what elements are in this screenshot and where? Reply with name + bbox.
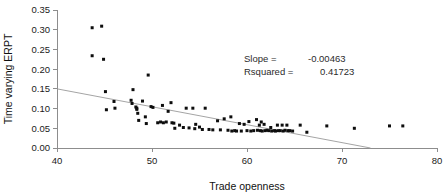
data-point bbox=[240, 130, 243, 133]
data-point bbox=[255, 118, 258, 121]
data-point bbox=[162, 121, 165, 124]
data-point bbox=[211, 128, 214, 131]
data-point bbox=[276, 124, 279, 127]
data-point bbox=[243, 123, 246, 126]
data-point bbox=[178, 124, 181, 127]
slope-label: Slope = bbox=[244, 53, 277, 64]
data-point bbox=[105, 108, 108, 111]
data-point bbox=[261, 130, 264, 133]
data-point bbox=[193, 127, 196, 130]
data-point bbox=[141, 100, 144, 103]
data-point-group bbox=[91, 25, 405, 134]
y-tick-label: 0.20 bbox=[32, 64, 51, 75]
x-axis-title: Trade openness bbox=[209, 180, 285, 192]
y-tick-label: 0.25 bbox=[32, 44, 51, 55]
data-point bbox=[194, 123, 197, 126]
data-point bbox=[274, 130, 277, 133]
data-point bbox=[173, 127, 176, 130]
y-tick-marks bbox=[53, 10, 57, 148]
data-point bbox=[185, 107, 188, 110]
data-point bbox=[191, 107, 194, 110]
data-point bbox=[299, 124, 302, 127]
data-point bbox=[223, 117, 226, 120]
y-tick-label: 0.35 bbox=[32, 4, 51, 15]
statistics-annotation: Slope = -0.00463 Rsquared = 0.41723 bbox=[244, 53, 354, 77]
data-point bbox=[167, 110, 170, 113]
data-point bbox=[270, 130, 273, 133]
data-point bbox=[131, 102, 134, 105]
data-point bbox=[135, 108, 138, 111]
rsquared-value: 0.41723 bbox=[320, 66, 354, 77]
data-point bbox=[267, 129, 270, 132]
y-tick-label: 0.05 bbox=[32, 123, 51, 134]
data-point bbox=[145, 122, 148, 125]
y-tick-labels: 0.000.050.100.150.200.250.300.35 bbox=[32, 4, 51, 153]
data-point bbox=[229, 115, 232, 118]
data-point bbox=[91, 54, 94, 57]
data-point bbox=[288, 129, 291, 132]
data-point bbox=[130, 99, 133, 102]
y-tick-label: 0.15 bbox=[32, 83, 51, 94]
data-point bbox=[151, 106, 154, 109]
data-point bbox=[198, 126, 201, 129]
data-point bbox=[201, 128, 204, 131]
data-point bbox=[156, 121, 159, 124]
data-point bbox=[182, 126, 185, 129]
x-tick-marks bbox=[57, 148, 437, 152]
data-point bbox=[258, 124, 261, 127]
rsquared-label: Rsquared = bbox=[244, 66, 294, 77]
data-point bbox=[269, 126, 272, 129]
data-point bbox=[325, 124, 328, 127]
data-point bbox=[227, 129, 230, 132]
y-tick-label: 0.10 bbox=[32, 103, 51, 114]
data-point bbox=[102, 58, 105, 61]
data-point bbox=[252, 129, 255, 132]
x-tick-labels: 4050607080 bbox=[52, 155, 443, 166]
data-point bbox=[204, 107, 207, 110]
data-point bbox=[247, 120, 250, 123]
chart-canvas: 0.000.050.100.150.200.250.300.35 4050607… bbox=[0, 0, 447, 195]
data-point bbox=[91, 26, 94, 29]
data-point bbox=[161, 104, 164, 107]
scatter-chart: 0.000.050.100.150.200.250.300.35 4050607… bbox=[0, 0, 447, 195]
data-point bbox=[284, 129, 287, 132]
data-point bbox=[219, 128, 222, 131]
data-point bbox=[291, 130, 294, 133]
data-point bbox=[165, 120, 168, 123]
plot-area: 0.000.050.100.150.200.250.300.35 4050607… bbox=[32, 4, 443, 166]
data-point bbox=[279, 129, 282, 132]
data-point bbox=[305, 131, 308, 134]
x-tick-label: 80 bbox=[432, 155, 443, 166]
data-point bbox=[401, 124, 404, 127]
data-point bbox=[216, 119, 219, 122]
data-point bbox=[388, 124, 391, 127]
data-point bbox=[260, 120, 263, 123]
x-tick-label: 50 bbox=[147, 155, 158, 166]
data-point bbox=[144, 115, 147, 118]
data-point bbox=[281, 124, 284, 127]
y-tick-label: 0.30 bbox=[32, 24, 51, 35]
data-point bbox=[235, 130, 238, 133]
x-tick-label: 40 bbox=[52, 155, 63, 166]
data-point bbox=[256, 129, 259, 132]
x-tick-label: 60 bbox=[242, 155, 253, 166]
y-tick-label: 0.00 bbox=[32, 142, 51, 153]
data-point bbox=[104, 90, 107, 93]
data-point bbox=[246, 129, 249, 132]
data-point bbox=[238, 122, 241, 125]
data-point bbox=[285, 124, 288, 127]
data-point bbox=[132, 88, 135, 91]
data-point bbox=[113, 100, 116, 103]
data-point bbox=[188, 126, 191, 129]
data-point bbox=[208, 128, 211, 131]
data-point bbox=[113, 107, 116, 110]
data-point bbox=[137, 119, 140, 122]
data-point bbox=[263, 123, 266, 126]
data-point bbox=[100, 25, 103, 28]
data-point bbox=[159, 120, 162, 123]
data-point bbox=[249, 130, 252, 133]
data-point bbox=[172, 122, 175, 125]
data-point bbox=[353, 127, 356, 130]
x-tick-label: 70 bbox=[337, 155, 348, 166]
trend-line bbox=[57, 89, 371, 148]
